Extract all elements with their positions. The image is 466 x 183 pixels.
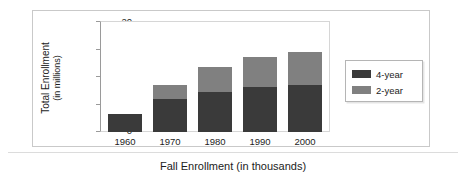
bar-2000 bbox=[288, 52, 322, 132]
y-axis-title-line1: Total Enrollment bbox=[40, 42, 51, 114]
y-axis-title: Total Enrollment (in millions) bbox=[40, 30, 62, 126]
chart-figure: Total Enrollment (in millions) 20 15 10 … bbox=[0, 0, 466, 183]
legend-label-2-year: 2-year bbox=[376, 85, 403, 96]
bar-1990-segment-4year bbox=[243, 87, 277, 133]
legend: 4-year 2-year bbox=[345, 60, 423, 102]
x-tick-label-1990: 1990 bbox=[238, 136, 282, 147]
bar-1980 bbox=[198, 67, 232, 132]
bar-1960 bbox=[108, 114, 142, 132]
bar-1970 bbox=[153, 85, 187, 132]
bar-1970-segment-4year bbox=[153, 99, 187, 132]
bar-1990 bbox=[243, 57, 277, 132]
x-tick-label-1980: 1980 bbox=[193, 136, 237, 147]
bar-1980-segment-4year bbox=[198, 92, 232, 132]
y-axis-title-line2: (in millions) bbox=[51, 42, 63, 114]
legend-label-4-year: 4-year bbox=[376, 69, 403, 80]
bar-1970-segment-2year bbox=[153, 85, 187, 99]
figure-bottom-rule bbox=[8, 152, 458, 153]
x-tick-label-2000: 2000 bbox=[283, 136, 327, 147]
legend-swatch-2-year bbox=[352, 86, 371, 94]
x-tick-label-1960: 1960 bbox=[103, 136, 147, 147]
bar-2000-segment-2year bbox=[288, 52, 322, 85]
bars-layer bbox=[100, 21, 330, 132]
bar-2000-segment-4year bbox=[288, 85, 322, 132]
legend-swatch-4-year bbox=[352, 70, 371, 78]
bar-1960-segment-4year bbox=[108, 114, 142, 132]
x-axis-title: Fall Enrollment (in thousands) bbox=[0, 160, 466, 172]
bar-1990-segment-2year bbox=[243, 57, 277, 86]
legend-entry-4-year: 4-year bbox=[352, 67, 403, 81]
x-tick-label-1970: 1970 bbox=[148, 136, 192, 147]
legend-entry-2-year: 2-year bbox=[352, 83, 403, 97]
bar-1980-segment-2year bbox=[198, 67, 232, 93]
